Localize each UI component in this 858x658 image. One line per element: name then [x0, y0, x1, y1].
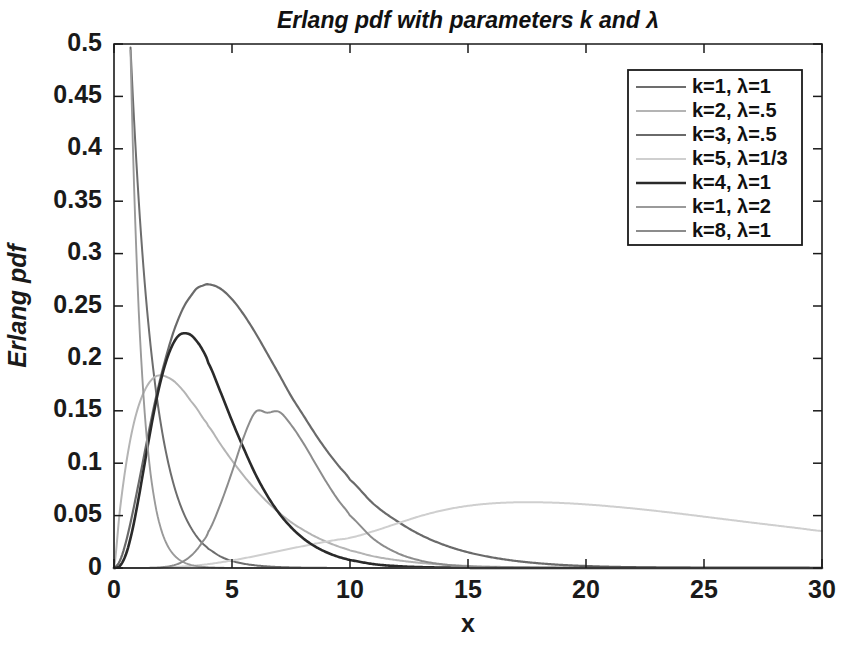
figure-canvas: 051015202530 00.050.10.150.20.250.30.350…: [0, 0, 858, 658]
x-tick-label: 15: [454, 575, 482, 603]
y-tick-label: 0.25: [53, 290, 102, 318]
chart-title: Erlang pdf with parameters k and λ: [277, 7, 659, 33]
y-tick-label: 0.3: [67, 237, 102, 265]
legend-item-label[interactable]: k=2, λ=.5: [692, 99, 777, 121]
y-tick-label: 0: [88, 552, 102, 580]
legend-item-label[interactable]: k=5, λ=1/3: [692, 147, 788, 169]
legend[interactable]: k=1, λ=1k=2, λ=.5k=3, λ=.5k=5, λ=1/3k=4,…: [628, 70, 802, 245]
y-tick-label: 0.35: [53, 185, 102, 213]
x-tick-label: 10: [336, 575, 364, 603]
x-tick-label: 30: [808, 575, 836, 603]
x-tick-label: 5: [225, 575, 239, 603]
legend-item-label[interactable]: k=4, λ=1: [692, 171, 771, 193]
x-axis-label: x: [461, 609, 475, 637]
legend-item-label[interactable]: k=1, λ=1: [692, 75, 771, 97]
y-tick-label: 0.2: [67, 342, 102, 370]
legend-item-label[interactable]: k=8, λ=1: [692, 219, 771, 241]
erlang-pdf-chart: 051015202530 00.050.10.150.20.250.30.350…: [0, 0, 858, 658]
y-tick-label: 0.5: [67, 28, 102, 56]
y-tick-label: 0.45: [53, 80, 102, 108]
x-tick-label: 20: [572, 575, 600, 603]
x-tick-label: 0: [107, 575, 121, 603]
legend-item-label[interactable]: k=1, λ=2: [692, 195, 771, 217]
x-tick-label: 25: [690, 575, 718, 603]
y-tick-label: 0.05: [53, 499, 102, 527]
y-tick-label: 0.4: [67, 132, 102, 160]
y-tick-label: 0.15: [53, 394, 102, 422]
y-tick-label: 0.1: [67, 447, 102, 475]
legend-item-label[interactable]: k=3, λ=.5: [692, 123, 777, 145]
y-axis-label: Erlang pdf: [3, 242, 31, 368]
